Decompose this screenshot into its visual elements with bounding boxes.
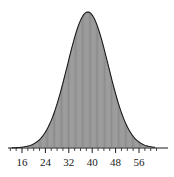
x-tick-label: 16 — [11, 156, 33, 168]
normal-distribution-histogram-figure: 162432404856 — [0, 0, 174, 177]
x-tick-label: 32 — [58, 156, 80, 168]
x-tick-label: 48 — [105, 156, 127, 168]
x-tick-label: 40 — [81, 156, 103, 168]
x-tick-label: 56 — [128, 156, 150, 168]
x-tick-label: 24 — [34, 156, 56, 168]
x-axis — [8, 148, 168, 153]
histogram-bars — [27, 12, 148, 148]
x-axis-ticks — [10, 148, 156, 153]
chart-canvas — [0, 0, 174, 177]
